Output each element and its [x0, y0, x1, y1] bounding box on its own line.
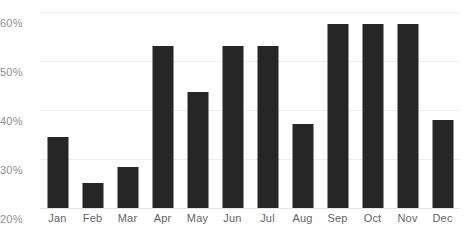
y-axis-tick-label: 20% — [0, 213, 34, 225]
x-axis-tick-label: Apr — [154, 212, 172, 224]
y-axis-tick-label: 60% — [0, 17, 34, 29]
bar[interactable] — [47, 137, 68, 208]
bar[interactable] — [187, 92, 208, 208]
bar[interactable] — [327, 24, 348, 208]
bar-slot — [355, 12, 390, 208]
bar-slot — [75, 12, 110, 208]
x-axis-tick-label: Aug — [292, 212, 312, 224]
x-axis-tick-label: Nov — [397, 212, 417, 224]
bar-slot — [40, 12, 75, 208]
bar-slot — [215, 12, 250, 208]
y-axis-tick-label: 30% — [0, 164, 34, 176]
bar-slot — [145, 12, 180, 208]
bar-slot — [425, 12, 460, 208]
x-axis-tick-label: Sep — [327, 212, 347, 224]
bar[interactable] — [362, 24, 383, 208]
bar[interactable] — [432, 120, 453, 208]
x-axis-tick-label: Jul — [260, 212, 275, 224]
bar[interactable] — [222, 46, 243, 208]
x-axis-tick-label: Dec — [432, 212, 452, 224]
bar[interactable] — [257, 46, 278, 208]
x-axis-tick-label: Feb — [83, 212, 103, 224]
bar[interactable] — [152, 46, 173, 208]
bar-slot — [110, 12, 145, 208]
x-axis: JanFebMarAprMayJunJulAugSepOctNovDec — [40, 212, 460, 232]
bar[interactable] — [292, 124, 313, 208]
y-axis-tick-label: 50% — [0, 66, 34, 78]
bar-slot — [320, 12, 355, 208]
x-axis-tick-label: Mar — [118, 212, 138, 224]
bar-slot — [180, 12, 215, 208]
bar-series — [40, 12, 460, 208]
bar-slot — [250, 12, 285, 208]
bar-slot — [390, 12, 425, 208]
bar[interactable] — [117, 167, 138, 208]
x-axis-tick-label: Jan — [48, 212, 66, 224]
x-axis-tick-label: Jun — [223, 212, 241, 224]
bar[interactable] — [397, 24, 418, 208]
bar-slot — [285, 12, 320, 208]
bar[interactable] — [82, 183, 103, 208]
bar-chart: 20%30%40%50%60% JanFebMarAprMayJunJulAug… — [0, 0, 467, 240]
x-axis-tick-label: Oct — [364, 212, 382, 224]
y-axis-tick-label: 40% — [0, 115, 34, 127]
x-axis-tick-label: May — [187, 212, 208, 224]
gridline — [40, 208, 460, 209]
chart-title — [40, 0, 460, 3]
